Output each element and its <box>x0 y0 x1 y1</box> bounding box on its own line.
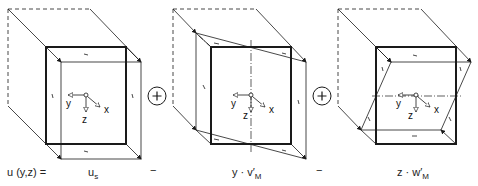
axis-label-x-2: x <box>269 104 274 115</box>
plus-operator-1 <box>148 87 166 105</box>
axis-label-y-1: y <box>66 98 71 109</box>
beam-displacement-diagram <box>0 0 478 186</box>
minus-operator-2: − <box>316 164 322 176</box>
axis-label-x-1: x <box>104 104 109 115</box>
axis-label-y-2: y <box>231 98 236 109</box>
minus-operator-1: − <box>150 164 156 176</box>
panel-3 <box>338 9 471 144</box>
axis-label-x-3: x <box>434 104 439 115</box>
plus-operator-2 <box>313 87 331 105</box>
term-y-vm: y · v′M <box>232 166 262 178</box>
term-us: us <box>88 166 98 178</box>
axis-label-z-3: z <box>408 110 413 121</box>
term-z-wm: z · w′M <box>397 166 429 178</box>
panel-2 <box>173 9 306 159</box>
equation-lhs: u (y,z) = <box>7 166 46 178</box>
axis-label-y-3: y <box>396 98 401 109</box>
axis-label-z-1: z <box>82 114 87 125</box>
axis-label-z-2: z <box>243 110 248 121</box>
panel-1 <box>8 9 141 159</box>
